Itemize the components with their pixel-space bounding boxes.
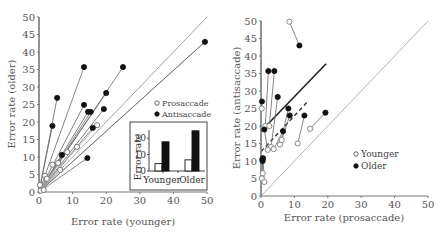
inset-bar-prosaccade-older	[185, 160, 192, 171]
left-y-tick-label: 20	[22, 117, 35, 128]
right-x-tick-label: 40	[388, 199, 401, 210]
right-pair-connector	[289, 22, 299, 46]
right-y-tick-label: 15	[244, 138, 257, 149]
right-younger-point	[259, 106, 264, 111]
right-younger-point	[262, 179, 267, 184]
legend-label-younger: Younger	[360, 149, 399, 159]
right-older-point	[259, 99, 264, 104]
legend-marker-prosaccade	[155, 101, 159, 105]
right-pair-connector	[265, 71, 268, 126]
right-y-tick-label: 50	[244, 16, 257, 27]
right-pair-connector	[271, 97, 278, 147]
left-x-tick-label: 50	[201, 195, 214, 206]
legend-label-antisaccade: Antisaccade	[161, 110, 211, 119]
left-antisaccade-point	[85, 155, 90, 160]
right-older-point	[275, 94, 280, 99]
left-antisaccade-point	[55, 95, 60, 100]
left-x-tick-label: 0	[36, 195, 42, 206]
right-y-tick-label: 25	[244, 103, 257, 114]
right-y-tick-label: 30	[244, 86, 257, 97]
left-y-tick-label: 5	[29, 169, 35, 180]
left-chart: 0510152025303540455001020304050 Error ra…	[6, 12, 213, 228]
right-x-tick-label: 0	[258, 199, 264, 210]
right-younger-point	[287, 19, 292, 24]
left-y-tick-label: 0	[29, 187, 35, 198]
right-x-tick-label: 20	[321, 199, 334, 210]
right-younger-point	[271, 147, 276, 152]
left-antisaccade-point	[50, 123, 55, 128]
right-older-point	[262, 127, 267, 132]
right-y-axis-label: Error rate (antisaccade)	[231, 47, 242, 170]
inset-bar-prosaccade-younger	[155, 164, 162, 171]
left-y-tick-label: 45	[22, 29, 35, 40]
right-points	[259, 19, 328, 184]
left-y-tick-label: 10	[22, 152, 35, 163]
left-prosaccade-point	[44, 176, 49, 181]
right-x-tick-label: 50	[422, 199, 435, 210]
right-y-tick-label: 0	[251, 191, 257, 202]
inset-x-tick-label: Older	[179, 175, 205, 185]
right-x-axis-label: Error rate (prosaccade)	[284, 212, 404, 223]
right-older-point	[266, 68, 271, 73]
left-x-tick-label: 10	[66, 195, 79, 206]
left-y-tick-label: 15	[22, 134, 35, 145]
right-older-point	[297, 43, 302, 48]
left-antisaccade-point	[101, 106, 106, 111]
right-younger-point	[279, 137, 284, 142]
right-older-point	[260, 156, 265, 161]
left-prosaccade-point	[65, 150, 70, 155]
right-legend: Younger Older	[354, 149, 399, 171]
left-y-tick-label: 25	[22, 99, 35, 110]
right-older-point	[286, 106, 291, 111]
inset-bar-antisaccade-older	[192, 131, 199, 171]
left-x-tick-label: 20	[100, 195, 113, 206]
left-x-tick-label: 30	[133, 195, 146, 206]
left-prosaccade-point	[56, 160, 61, 165]
inset-x-tick-label: Younger	[142, 175, 181, 185]
legend-marker-younger	[354, 152, 358, 156]
left-x-tick-label: 40	[167, 195, 180, 206]
left-antisaccade-point	[88, 109, 93, 114]
inset-bar-chart: 01020YoungerOlder Error rate	[130, 122, 207, 190]
right-younger-point	[267, 123, 272, 128]
right-y-tick-label: 35	[244, 68, 257, 79]
inset-bar-antisaccade-younger	[162, 142, 169, 171]
right-younger-point	[265, 147, 270, 152]
right-pair-connector	[310, 113, 325, 129]
left-antisaccade-point	[59, 152, 64, 157]
legend-marker-older	[354, 164, 358, 168]
right-older-point	[280, 129, 285, 134]
left-prosaccade-point	[50, 162, 55, 167]
right-y-tick-label: 10	[244, 156, 257, 167]
left-y-tick-label: 50	[22, 12, 35, 23]
left-prosaccade-point	[74, 144, 79, 149]
right-younger-point	[260, 171, 265, 176]
right-older-point	[302, 113, 307, 118]
right-younger-point	[295, 141, 300, 146]
right-x-tick-label: 10	[288, 199, 301, 210]
legend-label-prosaccade: Prosaccade	[162, 99, 209, 108]
right-y-tick-label: 40	[244, 51, 257, 62]
right-older-point	[287, 113, 292, 118]
legend-label-older: Older	[361, 161, 387, 171]
figure: 0510152025303540455001020304050 Error ra…	[0, 0, 441, 234]
left-y-axis-label: Error rate (older)	[6, 59, 17, 148]
left-y-tick-label: 35	[22, 64, 35, 75]
left-prosaccade-point	[41, 187, 46, 192]
left-x-axis-label: Error rate (younger)	[71, 216, 175, 227]
left-antisaccade-point	[81, 102, 86, 107]
right-older-fit-line	[261, 64, 326, 132]
left-legend: Prosaccade Antisaccade	[155, 99, 212, 119]
right-x-tick-label: 30	[355, 199, 368, 210]
right-older-point	[272, 68, 277, 73]
left-prosaccade-point	[58, 167, 63, 172]
right-y-tick-label: 5	[251, 173, 257, 184]
legend-marker-antisaccade	[155, 112, 159, 116]
right-younger-point	[307, 126, 312, 131]
right-y-tick-label: 45	[244, 33, 257, 44]
inset-y-axis-label: Error rate	[133, 134, 143, 180]
left-prosaccade-point	[37, 182, 42, 187]
right-chart: 0510152025303540455001020304050 Error ra…	[231, 16, 434, 224]
left-y-tick-label: 40	[22, 47, 35, 58]
right-pair-connector	[298, 116, 305, 144]
